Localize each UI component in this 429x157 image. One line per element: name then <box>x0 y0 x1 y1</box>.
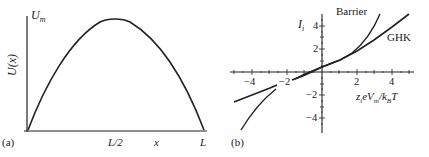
panel-a-label: (a) <box>2 137 14 148</box>
panel-b-xtick-p2: 2 <box>354 77 359 88</box>
panel-b-ytick-m4: −4 <box>306 113 317 124</box>
panel-a-xtick-mid: L/2 <box>108 137 123 148</box>
panel-a-xtick-end: L <box>200 137 206 148</box>
panel-b-ghk-curve-upper <box>292 14 409 80</box>
panel-b-label: (b) <box>231 137 244 148</box>
panel-b-ghk-label: GHK <box>387 32 411 43</box>
panel-b-barrier-curve-upper <box>295 14 380 79</box>
panel-a-potential-curve <box>28 19 204 130</box>
panel-b-xtick-p4: 4 <box>389 77 394 88</box>
panel-b-y-axis-label: Ii <box>298 18 304 33</box>
panel-b-xtick-m4: −4 <box>244 77 255 88</box>
panel-b-barrier-label: Barrier <box>336 6 367 17</box>
panel-a-ymax-label: Um <box>31 9 45 24</box>
panel-a-axes <box>24 16 207 132</box>
chart-canvas <box>0 0 429 157</box>
panel-b-x-axis-label: zieVm/kBT <box>356 91 397 105</box>
panel-b-xtick-m2: −2 <box>279 77 290 88</box>
panel-b-barrier-curve-lower <box>241 89 276 130</box>
panel-a-y-axis-label: U(x) <box>6 54 18 76</box>
panel-a-x-axis-label: x <box>154 137 159 148</box>
panel-b-ytick-p2: 2 <box>313 44 318 55</box>
panel-b-ytick-p4: 4 <box>313 21 318 32</box>
panel-b-ytick-m2: −2 <box>306 90 317 101</box>
